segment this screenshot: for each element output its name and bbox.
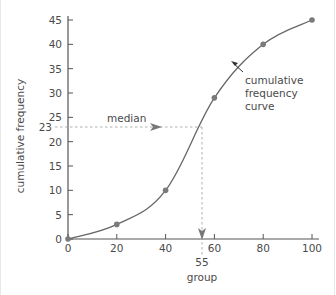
x-tick-label: 0 bbox=[65, 242, 72, 254]
data-point bbox=[163, 188, 169, 194]
y-tick-label: 0 bbox=[55, 233, 62, 245]
curve-label-line1: cumulative bbox=[245, 74, 303, 86]
median-x-marker: 55 bbox=[195, 256, 208, 268]
data-point bbox=[309, 17, 315, 23]
cumulative-frequency-chart: 051015202530354045 020406080100 cumulati… bbox=[0, 0, 336, 295]
x-tick-label: 100 bbox=[302, 242, 322, 254]
data-point bbox=[114, 222, 120, 228]
curve-label-line3: curve bbox=[245, 100, 274, 112]
y-ticks: 051015202530354045 bbox=[49, 14, 73, 245]
y-tick-label: 10 bbox=[49, 184, 62, 196]
x-axis-title: group bbox=[187, 271, 218, 283]
curve-label-line2: frequency bbox=[245, 87, 298, 99]
y-tick-label: 5 bbox=[55, 209, 62, 221]
median-arrow-down-icon bbox=[198, 228, 206, 240]
y-tick-label: 35 bbox=[49, 63, 62, 75]
data-point bbox=[212, 95, 218, 101]
y-tick-label: 30 bbox=[49, 87, 62, 99]
median-y-marker: 23 bbox=[39, 121, 52, 133]
x-ticks: 020406080100 bbox=[65, 234, 322, 254]
data-point bbox=[260, 42, 266, 48]
x-tick-label: 20 bbox=[110, 242, 123, 254]
y-tick-label: 15 bbox=[49, 160, 62, 172]
data-points bbox=[65, 17, 315, 242]
median-label: median bbox=[107, 112, 146, 124]
curve-annotation-arrow-icon bbox=[231, 61, 238, 66]
y-tick-label: 40 bbox=[49, 38, 62, 50]
x-tick-label: 60 bbox=[208, 242, 221, 254]
data-point bbox=[65, 236, 71, 242]
x-tick-label: 80 bbox=[257, 242, 270, 254]
y-tick-label: 45 bbox=[49, 14, 62, 26]
x-tick-label: 40 bbox=[159, 242, 172, 254]
y-axis-title: cumulative frequency bbox=[14, 79, 26, 193]
y-tick-label: 20 bbox=[49, 136, 62, 148]
cumulative-frequency-curve bbox=[68, 20, 312, 239]
